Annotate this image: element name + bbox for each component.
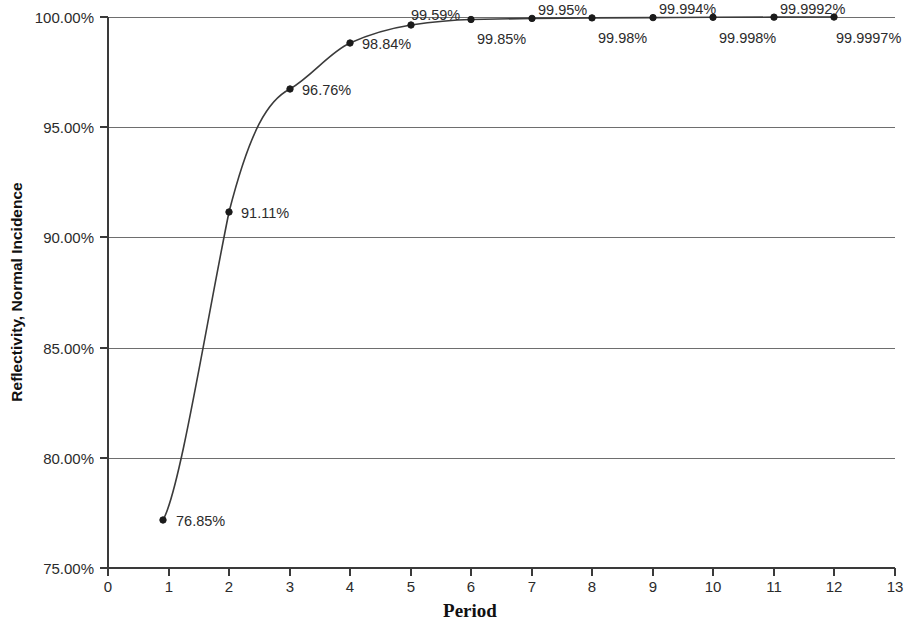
x-tick-label-5: 5 (407, 578, 415, 595)
data-label-12: 99.9997% (836, 30, 901, 46)
data-point-8 (589, 15, 595, 21)
data-point-1 (160, 517, 166, 523)
data-label-2: 91.11% (241, 205, 289, 221)
data-label-7: 99.95% (538, 2, 587, 18)
x-tick-label-10: 10 (705, 578, 722, 595)
data-point-3 (287, 86, 293, 92)
data-label-5: 99.59% (411, 7, 460, 23)
x-tick-label-12: 12 (826, 578, 843, 595)
y-axis-ticks (100, 17, 108, 568)
x-tick-label-1: 1 (165, 578, 173, 595)
y-tick-label-100: 100.00% (35, 9, 94, 26)
x-tick-label-6: 6 (467, 578, 475, 595)
data-point-7 (529, 15, 535, 21)
y-tick-label-85: 85.00% (43, 340, 94, 357)
data-label-6: 99.85% (477, 31, 526, 47)
data-label-9: 99.994% (659, 1, 716, 17)
y-axis-title: Reflectivity, Normal Incidence (8, 182, 25, 402)
x-tick-label-8: 8 (588, 578, 596, 595)
y-tick-label-95: 95.00% (43, 119, 94, 136)
data-label-11: 99.9992% (780, 1, 845, 17)
data-point-4 (347, 40, 353, 46)
data-point-6 (468, 16, 474, 22)
x-tick-label-3: 3 (286, 578, 294, 595)
data-label-4: 98.84% (362, 36, 411, 52)
x-tick-label-11: 11 (766, 578, 782, 595)
data-label-8: 99.98% (598, 30, 647, 46)
x-tick-label-13: 13 (887, 578, 904, 595)
x-axis-title: Period (443, 600, 497, 621)
x-tick-label-2: 2 (225, 578, 233, 595)
data-label-1: 76.85% (176, 513, 225, 529)
plot-area (108, 17, 895, 568)
data-label-3: 96.76% (302, 82, 351, 98)
x-tick-label-0: 0 (104, 578, 112, 595)
y-tick-label-75: 75.00% (43, 560, 94, 577)
data-point-2 (226, 209, 232, 215)
data-point-9 (650, 14, 656, 20)
y-tick-label-80: 80.00% (43, 450, 94, 467)
x-tick-label-9: 9 (649, 578, 657, 595)
x-axis-ticks (108, 568, 895, 576)
x-tick-label-7: 7 (528, 578, 536, 595)
y-tick-label-90: 90.00% (43, 229, 94, 246)
reflectivity-line-chart: 100.00% 95.00% 90.00% 85.00% 80.00% 75.0… (0, 0, 906, 625)
data-point-11 (771, 14, 777, 20)
x-tick-label-4: 4 (346, 578, 354, 595)
chart-container: 100.00% 95.00% 90.00% 85.00% 80.00% 75.0… (0, 0, 906, 625)
data-label-10: 99.998% (719, 30, 776, 46)
